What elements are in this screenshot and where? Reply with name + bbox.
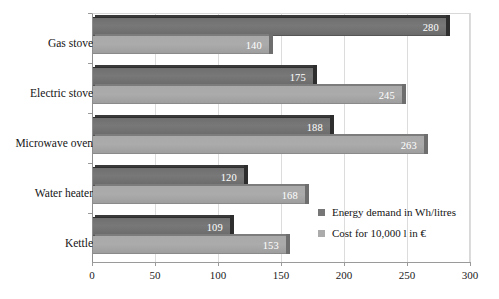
bar-value-label: 120 xyxy=(221,171,237,182)
bar-cap-top xyxy=(95,115,334,117)
bar-cap xyxy=(330,115,334,136)
bar-cap-top xyxy=(95,165,248,167)
bar-fill xyxy=(93,236,286,254)
tick-50 xyxy=(155,262,156,266)
bar-cap-top xyxy=(95,65,317,67)
x-tick-label-150: 150 xyxy=(273,269,290,281)
ytick-2 xyxy=(88,113,92,114)
x-tick-label-200: 200 xyxy=(336,269,353,281)
bar-value-label: 168 xyxy=(282,190,298,201)
x-tick-label-300: 300 xyxy=(462,269,479,281)
bar-cap xyxy=(305,184,309,204)
bar-cap-top xyxy=(95,184,309,186)
bar-kettle-cost: 153 xyxy=(93,236,286,254)
bar-chart: Gas stove Electric stove Microwave oven … xyxy=(0,0,499,299)
bar-value-label: 109 xyxy=(207,221,223,232)
legend-label-cost: Cost for 10,000 l in € xyxy=(332,225,426,242)
bar-gas-stove-cost: 140 xyxy=(93,36,269,54)
tick-0 xyxy=(92,262,93,266)
chart-legend: Energy demand in Wh/litres Cost for 10,0… xyxy=(318,204,456,246)
tick-250 xyxy=(407,262,408,266)
bar-fill xyxy=(93,36,269,54)
legend-label-energy: Energy demand in Wh/litres xyxy=(332,204,456,221)
x-tick-label-50: 50 xyxy=(150,269,161,281)
bar-cap xyxy=(230,215,234,236)
bar-cap-top xyxy=(95,34,273,36)
category-label-gas-stove: Gas stove xyxy=(48,37,93,49)
bar-water-heater-cost: 168 xyxy=(93,186,305,204)
legend-item-cost: Cost for 10,000 l in € xyxy=(318,225,456,242)
category-label-electric-stove: Electric stove xyxy=(30,87,93,99)
bar-electric-stove-cost: 245 xyxy=(93,86,402,104)
ytick-1 xyxy=(88,63,92,64)
gridline-300 xyxy=(470,13,471,262)
ytick-top xyxy=(88,13,92,14)
tick-200 xyxy=(344,262,345,266)
x-tick-label-100: 100 xyxy=(210,269,227,281)
bar-cap xyxy=(424,134,428,154)
bar-value-label: 153 xyxy=(263,240,279,251)
category-label-water-heater: Water heater xyxy=(35,187,93,199)
bar-value-label: 280 xyxy=(423,21,439,32)
bar-fill xyxy=(93,136,424,154)
ytick-4 xyxy=(88,213,92,214)
bar-cap xyxy=(244,165,248,186)
bar-value-label: 188 xyxy=(307,121,323,132)
bar-cap xyxy=(286,234,290,254)
bar-cap-top xyxy=(95,215,234,217)
bar-cap-top xyxy=(95,234,290,236)
bar-cap xyxy=(313,65,317,86)
tick-150 xyxy=(281,262,282,266)
bar-cap-top xyxy=(95,15,450,17)
bar-cap-top xyxy=(95,134,428,136)
legend-swatch-icon-cost xyxy=(318,230,325,237)
bar-cap-top xyxy=(95,84,406,86)
x-tick-label-250: 250 xyxy=(399,269,416,281)
category-label-kettle: Kettle xyxy=(65,237,93,249)
tick-100 xyxy=(218,262,219,266)
bar-fill xyxy=(93,186,305,204)
ytick-3 xyxy=(88,163,92,164)
tick-300 xyxy=(470,262,471,266)
bar-fill xyxy=(93,86,402,104)
bar-value-label: 140 xyxy=(246,40,262,51)
bar-cap xyxy=(446,15,450,36)
bar-value-label: 245 xyxy=(379,90,395,101)
x-tick-label-0: 0 xyxy=(89,269,95,281)
bar-value-label: 263 xyxy=(401,140,417,151)
legend-swatch-icon-energy xyxy=(318,209,325,216)
category-label-microwave-oven: Microwave oven xyxy=(15,137,93,149)
bar-microwave-oven-cost: 263 xyxy=(93,136,424,154)
legend-item-energy: Energy demand in Wh/litres xyxy=(318,204,456,221)
bar-cap xyxy=(402,84,406,104)
bar-value-label: 175 xyxy=(290,71,306,82)
bar-cap xyxy=(269,34,273,54)
